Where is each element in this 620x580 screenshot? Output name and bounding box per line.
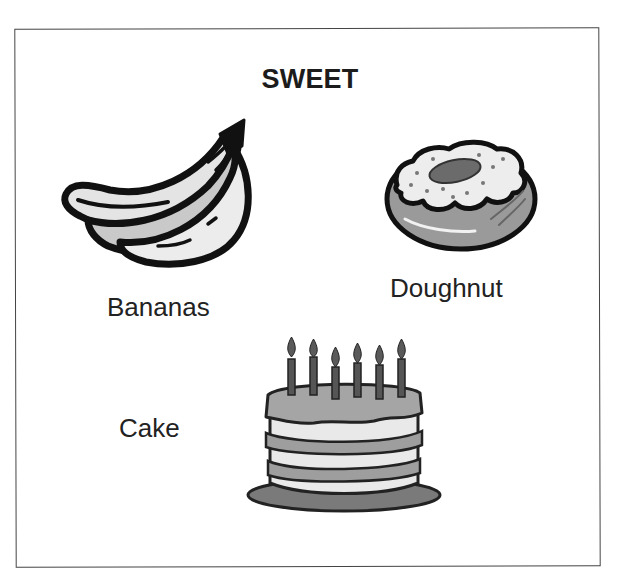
birthday-cake-icon (244, 333, 444, 517)
label-bananas: Bananas (107, 292, 210, 323)
label-doughnut: Doughnut (390, 273, 503, 304)
label-cake: Cake (119, 413, 180, 444)
card-title: SWEET (0, 64, 620, 95)
banana-icon (58, 116, 254, 270)
doughnut-icon (383, 135, 539, 253)
